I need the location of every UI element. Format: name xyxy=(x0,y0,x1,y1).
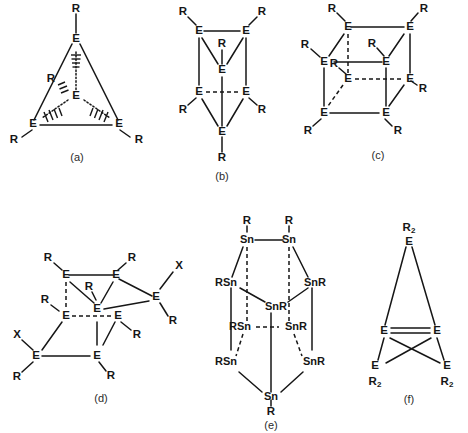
atom-c-r-front-bottom-right: R xyxy=(394,124,403,136)
atom-b-r-top-back: R xyxy=(218,37,227,49)
atom-c-e-interior-right: E xyxy=(406,72,414,84)
bond-d-x-wing xyxy=(160,272,173,289)
bond-c-btr-ftr xyxy=(389,34,404,56)
atom-f-e-bottom-right: E xyxy=(443,359,451,371)
bond-e-upperright-to-center xyxy=(288,288,308,302)
atom-a-e-top: E xyxy=(72,32,80,44)
atom-b-r-bottom-right: R xyxy=(258,103,267,115)
atom-f-e-mid-left: E xyxy=(380,324,388,336)
bond-e-lowerright-to-bottom xyxy=(281,372,303,392)
atom-c-r-interior-left: R xyxy=(330,57,339,69)
atom-f-r2-apex: R2 xyxy=(403,221,416,235)
bond-f-midright-to-bottomleft xyxy=(386,338,431,363)
bond-c-interior-to-fbr xyxy=(389,85,404,106)
panel-b-trigonal-prism: E E E E E E R R R R R R (b) xyxy=(179,5,267,182)
atom-b-e-bottom-back: E xyxy=(218,125,226,137)
atom-c-r-back-top-left: R xyxy=(328,2,337,14)
atom-d-r-back-top-left: R xyxy=(44,251,53,263)
atom-b-r-top-right: R xyxy=(258,5,267,17)
atom-e-rsn-mid-left: RSn xyxy=(229,320,251,332)
atom-a-r-top: R xyxy=(72,2,81,14)
bond-e-midleft-to-lowerleft xyxy=(236,334,243,356)
atom-d-e-back-top-left: E xyxy=(62,268,70,280)
atom-a-r-right: R xyxy=(135,133,144,145)
atom-e-sn-top-right: Sn xyxy=(282,233,296,245)
bond-b-bottomright-bottomback xyxy=(227,99,243,126)
atom-d-x-wing: X xyxy=(175,259,183,271)
atom-c-e-front-top-left: E xyxy=(320,55,328,67)
bond-e-topleft-to-upperleft xyxy=(232,247,243,277)
panel-f-crossed-ring: E E E E E R2 R2 R2 (f) xyxy=(369,221,454,405)
atom-d-r-center: R xyxy=(85,280,94,292)
panel-d-extended-cage: E E E E E E E E R R R X R R R X R R (d) xyxy=(13,251,183,404)
bond-d-r-btl xyxy=(54,263,62,270)
bond-b-r-bottomright xyxy=(249,98,257,105)
panel-label-a: (a) xyxy=(70,151,83,163)
chemical-structures-figure: E E E E R R R R (a) E E E E E E xyxy=(0,0,468,433)
bond-e-midright-to-lowerright xyxy=(294,334,302,356)
atom-d-e-bottom-left: E xyxy=(32,349,40,361)
panel-e-tin-cluster: Sn Sn R R RSn SnR SnR RSn SnR RSn SnR Sn… xyxy=(215,214,326,431)
bond-c-r-fbr xyxy=(385,119,392,126)
bond-f-midleft-to-bottomright xyxy=(390,338,440,363)
atom-d-e-center: E xyxy=(93,302,101,314)
bond-e-upperleft-to-center xyxy=(240,288,265,302)
bond-c-btl-ftl xyxy=(329,34,344,56)
atom-e-sn-top-left: Sn xyxy=(240,233,254,245)
atom-e-r-bottom: R xyxy=(267,405,276,417)
bond-d-left-vertical xyxy=(42,322,62,350)
atom-e-rsn-upper-left: RSn xyxy=(215,276,237,288)
panel-label-f: (f) xyxy=(404,393,414,405)
atom-b-e-top-left: E xyxy=(195,24,203,36)
atom-b-e-bottom-left: E xyxy=(195,85,203,97)
atom-d-r-back-top-right: R xyxy=(128,251,137,263)
panel-label-c: (c) xyxy=(372,149,385,161)
atom-f-e-apex: E xyxy=(405,235,413,247)
atom-d-e-front-left: E xyxy=(62,309,70,321)
atom-d-e-bottom-center: E xyxy=(93,349,101,361)
bond-d-btr-to-wing xyxy=(119,279,152,296)
bond-c-interior-to-fbl xyxy=(328,85,343,106)
atom-d-r-front-right: R xyxy=(133,328,142,340)
atom-a-e-right: E xyxy=(115,117,123,129)
bond-b-r-bottomleft xyxy=(188,98,196,105)
atom-e-snr-lower-right: SnR xyxy=(303,355,325,367)
atom-c-r-front-bottom-left: R xyxy=(304,124,313,136)
bond-d-r-fr xyxy=(121,322,131,330)
atom-a-e-center: E xyxy=(72,89,80,101)
bond-a-top-to-right xyxy=(80,44,118,120)
atom-e-r-top-right: R xyxy=(285,214,294,226)
hash-marks-a-center-r xyxy=(58,82,69,93)
bond-c-r-ftl xyxy=(311,49,320,57)
atom-f-r2-bottom-left: R2 xyxy=(369,375,382,389)
bond-e-lowerleft-to-bottom xyxy=(239,372,262,392)
atom-e-rsn-lower-left: RSn xyxy=(215,355,237,367)
atom-b-e-top-right: E xyxy=(242,24,250,36)
atom-a-r-center: R xyxy=(47,72,56,84)
atom-a-r-left: R xyxy=(10,133,19,145)
atom-c-r-front-top-left: R xyxy=(301,38,310,50)
panel-label-d: (d) xyxy=(94,392,107,404)
atom-f-e-mid-right: E xyxy=(433,324,441,336)
bond-b-bottomleft-bottomback xyxy=(202,99,218,126)
atom-c-r-interior-right: R xyxy=(419,82,428,94)
atom-c-e-front-top-right: E xyxy=(382,55,390,67)
atom-d-r-front-left: R xyxy=(41,293,50,305)
bond-f-midleft-to-bottomleft xyxy=(378,338,384,360)
bond-d-r-center xyxy=(92,292,96,300)
atom-b-r-top-left: R xyxy=(179,5,188,17)
atom-d-x-bottom-left: X xyxy=(13,328,21,340)
atom-d-r-bottom-center: R xyxy=(107,369,116,381)
atom-e-sn-bottom: Sn xyxy=(264,390,278,402)
bond-d-btr-to-center xyxy=(101,282,113,303)
bond-e-topright-to-upperright xyxy=(293,247,308,277)
bond-d-r-bottomcenter xyxy=(99,362,106,371)
atom-f-r2-bottom-right: R2 xyxy=(441,375,454,389)
bond-f-apex-to-midleft xyxy=(385,247,406,325)
bond-d-r-wing xyxy=(160,303,168,316)
bond-f-apex-to-midright xyxy=(412,247,435,325)
atom-c-r-front-top-right: R xyxy=(368,37,377,49)
atom-b-r-bottom-left: R xyxy=(179,103,188,115)
panel-label-e: (e) xyxy=(264,419,277,431)
bond-d-r-bottomleft xyxy=(22,362,33,372)
